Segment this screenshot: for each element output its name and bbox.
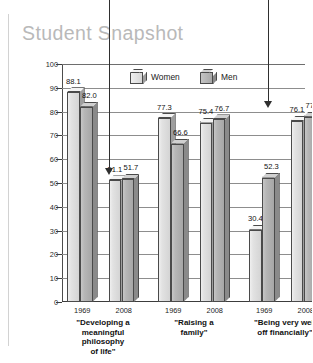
bar-women-2008	[109, 180, 122, 302]
page-margin-rule	[8, 14, 9, 346]
arrow-shaft	[109, 0, 110, 168]
bar-top-wrap	[171, 139, 189, 144]
x-axis-year-label: 1969	[158, 306, 188, 315]
x-axis-category-label: "Being very well off financially"	[241, 318, 312, 337]
page-title: Student Snapshot	[22, 22, 183, 45]
cube-light-icon	[130, 69, 146, 84]
bar-top-face	[80, 102, 98, 107]
bar-women-1969	[249, 230, 262, 302]
bar-front-face	[249, 230, 262, 302]
bar-front-face	[122, 179, 135, 302]
x-axis-category-label: "Developing a meaningful philosophy of l…	[59, 318, 147, 356]
bar-top-wrap	[262, 173, 280, 178]
bar-side-face	[225, 114, 230, 302]
y-axis-tick	[56, 88, 62, 89]
bar-top-face	[262, 173, 280, 178]
bar-value-label: 30.4	[248, 214, 263, 223]
bar-front-face	[262, 178, 275, 302]
bar-value-label: 52.3	[264, 162, 279, 171]
arrow-to-2008-financial	[264, 0, 273, 109]
bar-women-2008	[200, 123, 213, 302]
bar-men-1969	[262, 178, 275, 302]
y-axis-tick	[56, 254, 62, 255]
y-axis-tick	[56, 231, 62, 232]
bar-top-wrap	[304, 112, 313, 117]
bar-front-face	[171, 144, 184, 303]
x-axis-year-label: 2008	[200, 306, 230, 315]
x-axis-year-label: 1969	[249, 306, 279, 315]
bar-top-wrap	[80, 102, 98, 107]
bar-women-2008	[291, 121, 304, 302]
y-axis-tick	[56, 64, 62, 65]
x-axis-year-label: 1969	[67, 306, 97, 315]
bar-front-face	[158, 118, 171, 302]
bar-top-face	[304, 112, 313, 117]
bar-value-label: 76.1	[290, 105, 305, 114]
arrow-head-icon	[264, 101, 272, 108]
legend-label: Men	[221, 72, 237, 82]
bar-front-face	[109, 180, 122, 302]
bar-front-face	[67, 92, 80, 302]
x-axis-category-label: "Raising a family"	[150, 318, 238, 337]
bar-value-label: 75.4	[199, 107, 214, 116]
chart-page: Student Snapshot 1009080706050403020100 …	[0, 0, 312, 363]
arrow-to-2008-philosophy	[105, 0, 114, 176]
bar-women-1969	[158, 118, 171, 302]
legend-cube-part	[130, 72, 143, 84]
bar-top-face	[213, 114, 231, 119]
y-axis-tick	[56, 159, 62, 160]
arrow-head-icon	[105, 168, 113, 175]
y-axis-tick	[56, 207, 62, 208]
bar-side-face	[184, 139, 189, 303]
bar-men-2008	[122, 179, 135, 302]
y-axis-tick	[56, 183, 62, 184]
bar-side-face	[275, 173, 280, 302]
bar-front-face	[80, 107, 93, 302]
legend-cube-part	[200, 72, 213, 84]
bar-top-wrap	[122, 174, 140, 179]
y-axis-tick	[56, 135, 62, 136]
bar-men-2008	[304, 117, 313, 302]
legend-label: Women	[151, 72, 180, 82]
bar-women-1969	[67, 92, 80, 302]
bar-value-label: 82.0	[82, 91, 97, 100]
bar-side-face	[93, 102, 98, 302]
bar-value-label: 88.1	[66, 77, 81, 86]
bar-front-face	[304, 117, 313, 302]
bar-value-label: 77.8	[306, 101, 313, 110]
bar-side-face	[134, 174, 139, 302]
bar-top-wrap	[213, 114, 231, 119]
x-axis-year-label: 2008	[109, 306, 139, 315]
bar-value-label: 66.6	[173, 128, 188, 137]
bar-top-face	[122, 174, 140, 179]
y-axis-tick	[56, 112, 62, 113]
y-axis-tick	[56, 278, 62, 279]
bar-men-1969	[171, 144, 184, 303]
x-axis-year-label: 2008	[291, 306, 312, 315]
bar-top-face	[171, 139, 189, 144]
gridline	[62, 112, 305, 113]
bar-value-label: 51.7	[124, 163, 139, 172]
bar-men-1969	[80, 107, 93, 302]
y-axis-tick	[56, 302, 62, 303]
bar-value-label: 76.7	[215, 104, 230, 113]
bar-front-face	[200, 123, 213, 302]
bar-men-2008	[213, 119, 226, 302]
bar-top-face	[158, 113, 176, 118]
bar-front-face	[291, 121, 304, 302]
bar-top-wrap	[158, 113, 176, 118]
bar-front-face	[213, 119, 226, 302]
bar-value-label: 77.3	[157, 103, 172, 112]
arrow-shaft	[268, 0, 269, 101]
cube-dark-icon	[200, 69, 216, 84]
